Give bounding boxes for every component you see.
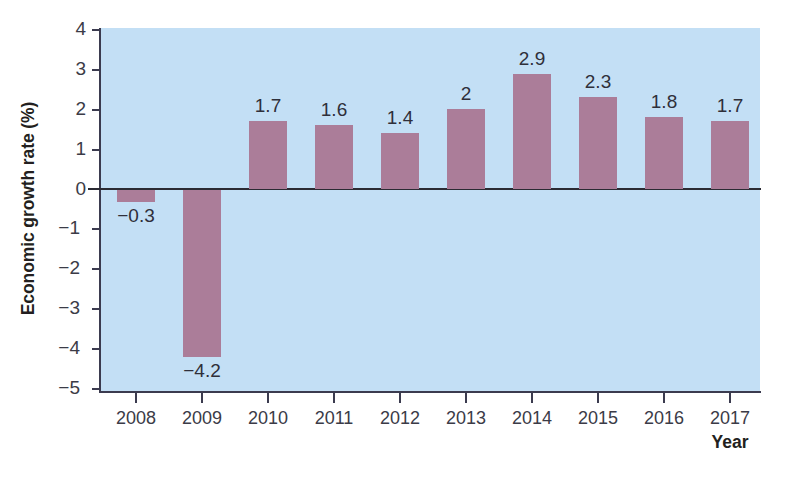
bar-value-2013: 2 [433,83,499,105]
x-tick-mark [201,393,203,403]
y-tick-mark [92,348,101,350]
bar-2013 [447,109,485,189]
bar-2008 [117,190,155,202]
y-tick-mark [92,69,101,71]
bar-chart-figure: Economic growth rate (%) 4 3 2 1 0 −1 −2… [0,0,794,479]
x-tick-mark [333,393,335,403]
x-axis-title: Year [694,432,766,453]
x-axis-spine [99,391,761,393]
bar-value-2016: 1.8 [631,91,697,113]
x-tick-mark [729,393,731,403]
y-tick-label: −1 [38,217,80,239]
bar-2009 [183,190,221,357]
y-tick-label: 0 [44,178,86,200]
x-tick-mark [663,393,665,403]
y-tick-mark [92,109,101,111]
y-tick-mark [92,388,101,390]
y-tick-label: 2 [44,98,86,120]
bar-value-2012: 1.4 [367,107,433,129]
bar-value-2017: 1.7 [697,95,763,117]
y-tick-mark [92,29,101,31]
x-tick-label-2016: 2016 [631,408,697,429]
x-tick-label-2010: 2010 [235,408,301,429]
bar-2012 [381,133,419,189]
bar-value-2011: 1.6 [301,99,367,121]
bar-2011 [315,125,353,189]
y-tick-label: 1 [44,138,86,160]
x-tick-mark [531,393,533,403]
bar-2010 [249,121,287,189]
y-tick-mark [92,308,101,310]
x-tick-label-2009: 2009 [169,408,235,429]
bar-2017 [711,121,749,189]
bar-value-2008: −0.3 [103,205,169,227]
bar-value-2014: 2.9 [499,48,565,70]
x-tick-mark [399,393,401,403]
bar-value-2015: 2.3 [565,71,631,93]
x-tick-label-2017: 2017 [697,408,763,429]
x-tick-label-2015: 2015 [565,408,631,429]
bar-2016 [645,117,683,189]
x-tick-label-2013: 2013 [433,408,499,429]
y-tick-label: 3 [44,58,86,80]
x-tick-label-2014: 2014 [499,408,565,429]
x-tick-label-2012: 2012 [367,408,433,429]
x-tick-mark [465,393,467,403]
y-tick-label: −5 [38,377,80,399]
y-tick-mark [92,268,101,270]
y-tick-mark [92,149,101,151]
bar-value-2010: 1.7 [235,95,301,117]
y-axis-spine [99,28,101,392]
bar-value-2009: −4.2 [169,360,235,382]
y-tick-mark [92,228,101,230]
bar-2014 [513,74,551,189]
y-tick-label: −3 [38,297,80,319]
y-tick-label: −4 [38,337,80,359]
bar-2015 [579,97,617,189]
x-tick-mark [597,393,599,403]
x-tick-label-2008: 2008 [103,408,169,429]
x-tick-label-2011: 2011 [301,408,367,429]
y-axis-title: Economic growth rate (%) [18,29,39,389]
y-tick-label: −2 [38,257,80,279]
x-tick-mark [267,393,269,403]
y-tick-label: 4 [44,18,86,40]
x-tick-mark [135,393,137,403]
